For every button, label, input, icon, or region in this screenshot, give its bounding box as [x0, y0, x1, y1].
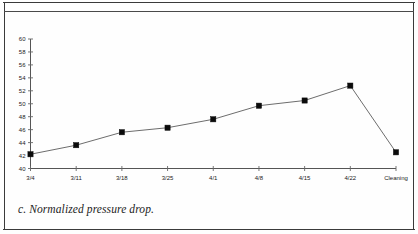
x-tick-label: 3/25 — [162, 175, 174, 181]
y-tick-label: 54 — [19, 75, 26, 81]
x-tick-label: 4/15 — [299, 175, 311, 181]
figure-caption: c. Normalized pressure drop. — [18, 203, 154, 215]
data-point-marker — [302, 98, 307, 103]
y-tick-label: 42 — [19, 153, 26, 159]
series-markers — [28, 83, 399, 157]
data-point-marker — [348, 83, 353, 88]
y-axis: 4042444648505254565860 — [19, 36, 33, 172]
data-point-marker — [165, 125, 170, 130]
data-point-marker — [256, 103, 261, 108]
y-tick-label: 50 — [19, 101, 26, 107]
x-axis: 3/43/113/183/254/14/84/154/22Cleaning — [26, 166, 408, 181]
chart-svg: 4042444648505254565860 3/43/113/183/254/… — [0, 0, 418, 234]
y-tick-label: 48 — [19, 114, 26, 120]
y-tick-label: 46 — [19, 127, 26, 133]
x-tick-label: 3/11 — [71, 175, 83, 181]
y-tick-label: 60 — [19, 36, 26, 42]
x-tick-label: 3/18 — [116, 175, 128, 181]
data-point-marker — [119, 130, 124, 135]
y-tick-label: 56 — [19, 62, 26, 68]
y-tick-label: 58 — [19, 49, 26, 55]
x-tick-label: Cleaning — [384, 175, 408, 181]
x-tick-label: 4/22 — [344, 175, 356, 181]
x-tick-label: 3/4 — [26, 175, 35, 181]
x-tick-label: 4/1 — [209, 175, 218, 181]
data-point-marker — [74, 143, 79, 148]
data-point-marker — [393, 150, 398, 155]
data-point-marker — [211, 117, 216, 122]
x-tick-label: 4/8 — [255, 175, 264, 181]
line-chart: 4042444648505254565860 3/43/113/183/254/… — [0, 0, 418, 234]
y-tick-label: 52 — [19, 88, 26, 94]
data-point-marker — [28, 152, 33, 157]
y-tick-label: 40 — [19, 166, 26, 172]
y-tick-label: 44 — [19, 140, 26, 146]
figure-page: 4042444648505254565860 3/43/113/183/254/… — [0, 0, 418, 234]
